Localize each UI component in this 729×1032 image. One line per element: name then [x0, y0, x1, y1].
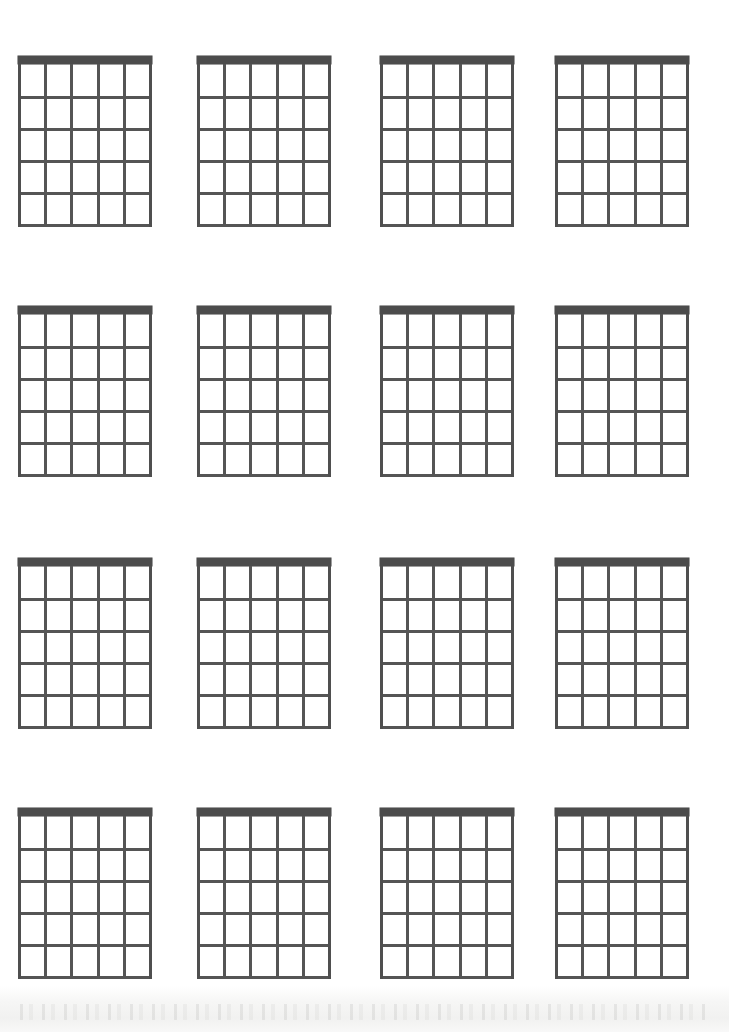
string-line	[223, 816, 226, 979]
chord-diagram[interactable]	[18, 306, 152, 477]
string-line	[380, 314, 383, 477]
fret-line	[555, 598, 689, 601]
fret-line	[555, 96, 689, 99]
nut-bar	[197, 808, 331, 816]
fret-line	[555, 346, 689, 349]
fretboard	[197, 64, 331, 227]
string-line	[197, 816, 200, 979]
fret-line	[555, 976, 689, 979]
nut-bar	[380, 56, 514, 64]
string-line	[44, 314, 47, 477]
string-line	[432, 64, 435, 227]
fret-line	[197, 880, 331, 883]
chord-diagram[interactable]	[555, 558, 689, 729]
chord-diagram[interactable]	[555, 808, 689, 979]
fret-line	[197, 128, 331, 131]
fret-line	[555, 442, 689, 445]
string-line	[328, 566, 331, 729]
string-line	[276, 816, 279, 979]
fret-line	[197, 224, 331, 227]
fretboard	[18, 566, 152, 729]
fret-line	[555, 630, 689, 633]
string-line	[459, 816, 462, 979]
string-line	[249, 64, 252, 227]
chord-diagram[interactable]	[197, 558, 331, 729]
string-line	[511, 64, 514, 227]
string-line	[123, 816, 126, 979]
string-line	[197, 314, 200, 477]
fret-line	[197, 694, 331, 697]
fret-line	[18, 630, 152, 633]
chord-diagram[interactable]	[18, 558, 152, 729]
nut-bar	[555, 808, 689, 816]
fret-line	[555, 880, 689, 883]
fret-line	[380, 912, 514, 915]
fret-line	[197, 346, 331, 349]
fret-line	[380, 346, 514, 349]
nut-bar	[197, 306, 331, 314]
string-line	[686, 816, 689, 979]
string-line	[70, 64, 73, 227]
chord-diagram[interactable]	[380, 558, 514, 729]
fretboard	[197, 566, 331, 729]
string-line	[634, 566, 637, 729]
string-line	[302, 314, 305, 477]
fret-line	[555, 474, 689, 477]
nut-bar	[380, 306, 514, 314]
string-line	[485, 816, 488, 979]
chord-diagram[interactable]	[380, 306, 514, 477]
fret-line	[380, 726, 514, 729]
fret-line	[197, 726, 331, 729]
chord-diagram[interactable]	[197, 306, 331, 477]
nut-bar	[555, 558, 689, 566]
fretboard	[380, 816, 514, 979]
fret-line	[18, 346, 152, 349]
string-line	[44, 566, 47, 729]
string-line	[249, 314, 252, 477]
fret-line	[380, 192, 514, 195]
string-line	[149, 314, 152, 477]
fret-line	[18, 192, 152, 195]
string-line	[406, 566, 409, 729]
fret-line	[380, 410, 514, 413]
fret-line	[555, 128, 689, 131]
string-line	[634, 314, 637, 477]
chord-diagram[interactable]	[380, 808, 514, 979]
string-line	[634, 816, 637, 979]
string-line	[686, 566, 689, 729]
string-line	[328, 64, 331, 227]
chord-diagram[interactable]	[18, 808, 152, 979]
chord-diagram-grid	[0, 0, 729, 1032]
chord-diagram[interactable]	[555, 306, 689, 477]
string-line	[686, 64, 689, 227]
chord-diagram[interactable]	[380, 56, 514, 227]
string-line	[149, 566, 152, 729]
string-line	[555, 816, 558, 979]
nut-bar	[555, 56, 689, 64]
fret-line	[555, 726, 689, 729]
nut-bar	[18, 306, 152, 314]
string-line	[149, 64, 152, 227]
fretboard	[197, 816, 331, 979]
string-line	[660, 314, 663, 477]
fretboard	[555, 566, 689, 729]
string-line	[197, 566, 200, 729]
fret-line	[197, 944, 331, 947]
chord-diagram[interactable]	[18, 56, 152, 227]
fret-line	[380, 598, 514, 601]
fretboard	[380, 566, 514, 729]
string-line	[44, 816, 47, 979]
string-line	[249, 566, 252, 729]
fret-line	[197, 442, 331, 445]
fret-line	[555, 192, 689, 195]
fretboard	[197, 314, 331, 477]
fret-line	[18, 128, 152, 131]
chord-diagram[interactable]	[197, 808, 331, 979]
chord-diagram[interactable]	[197, 56, 331, 227]
fret-line	[380, 694, 514, 697]
fretboard	[555, 64, 689, 227]
fret-line	[18, 944, 152, 947]
string-line	[511, 566, 514, 729]
chord-diagram[interactable]	[555, 56, 689, 227]
fret-line	[18, 474, 152, 477]
